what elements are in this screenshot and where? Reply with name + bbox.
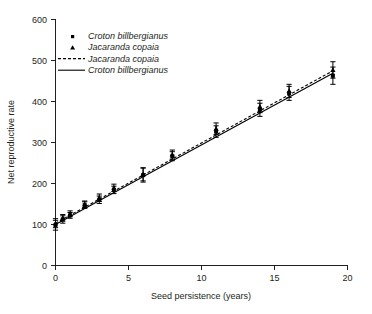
x-tick-label-10: 10 xyxy=(196,273,206,283)
x-axis-title: Seed persistence (years) xyxy=(151,291,251,301)
legend-entry-jacaranda-marker: Jacaranda copaia xyxy=(70,42,159,52)
y-tick-label-200: 200 xyxy=(32,179,47,189)
y-tick-label-300: 300 xyxy=(32,138,47,148)
chart-figure: 600 500 400 300 200 100 0 0 5 10 15 20 S… xyxy=(0,0,372,314)
legend-label-1: Jacaranda copaia xyxy=(87,42,159,52)
data-series-layer xyxy=(53,62,336,230)
x-tick-label-15: 15 xyxy=(269,273,279,283)
legend-label-3: Croton billbergianus xyxy=(88,65,169,75)
x-tick-label-20: 20 xyxy=(342,273,352,283)
x-axis-ticks xyxy=(56,266,348,271)
y-axis-ticks xyxy=(51,20,56,266)
legend-label-0: Croton billbergianus xyxy=(88,31,169,41)
y-axis-title: Net reproductive rate xyxy=(6,100,16,184)
square-marker-icon xyxy=(71,35,74,38)
legend-entry-croton-marker: Croton billbergianus xyxy=(71,31,169,41)
data-point-triangle xyxy=(214,126,219,131)
x-tick-label-0: 0 xyxy=(53,273,58,283)
legend-label-2: Jacaranda copaia xyxy=(87,54,159,64)
triangle-marker-icon xyxy=(70,45,75,49)
y-tick-label-400: 400 xyxy=(32,97,47,107)
data-point-triangle xyxy=(257,104,262,109)
y-tick-label-500: 500 xyxy=(32,56,47,66)
y-tick-label-0: 0 xyxy=(42,261,47,271)
y-axis: 600 500 400 300 200 100 0 xyxy=(32,15,56,271)
scatter-plot: 600 500 400 300 200 100 0 0 5 10 15 20 S… xyxy=(0,0,372,314)
x-tick-label-5: 5 xyxy=(126,273,131,283)
chart-legend: Croton billbergianus Jacaranda copaia Ja… xyxy=(58,31,169,75)
legend-entry-jacaranda-line: Jacaranda copaia xyxy=(58,54,159,64)
x-axis: 0 5 10 15 20 xyxy=(53,266,353,284)
data-point-triangle xyxy=(330,67,335,72)
fit-line-1 xyxy=(56,71,333,223)
y-tick-label-100: 100 xyxy=(32,220,47,230)
legend-entry-croton-line: Croton billbergianus xyxy=(58,65,169,75)
data-point-triangle xyxy=(287,88,292,93)
y-tick-label-600: 600 xyxy=(32,15,47,25)
